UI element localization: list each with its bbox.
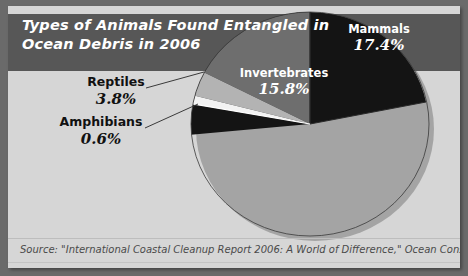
slice-label-mammals-value: 17.4% xyxy=(324,36,434,54)
slice-label-invertebrates-value: 15.8% xyxy=(226,80,342,98)
chart-title-line2: Ocean Debris in 2006 xyxy=(22,35,322,54)
callout-reptiles-value: 3.8% xyxy=(68,90,164,108)
slice-label-mammals: Mammals 17.4% xyxy=(324,22,434,54)
source-divider-top xyxy=(8,238,460,239)
chart-title: Types of Animals Found Entangled in Ocea… xyxy=(22,16,322,54)
callout-amphibians-name: Amphibians xyxy=(46,114,156,129)
slice-label-mammals-name: Mammals xyxy=(324,22,434,36)
chart-title-line1: Types of Animals Found Entangled in xyxy=(22,16,322,35)
callout-amphibians: Amphibians 0.6% xyxy=(46,114,156,148)
chart-figure: Mammals 17.4% Invertebrates 15.8% Reptil… xyxy=(0,0,468,276)
callout-reptiles: Reptiles 3.8% xyxy=(68,74,164,108)
source-note: Source: "International Coastal Cleanup R… xyxy=(20,244,450,255)
chart-panel: Mammals 17.4% Invertebrates 15.8% Reptil… xyxy=(8,6,460,268)
callout-reptiles-name: Reptiles xyxy=(68,74,164,89)
slice-label-invertebrates-name: Invertebrates xyxy=(226,66,342,80)
slice-label-invertebrates: Invertebrates 15.8% xyxy=(226,66,342,98)
source-divider-bottom xyxy=(8,262,460,263)
callout-amphibians-value: 0.6% xyxy=(46,130,156,148)
